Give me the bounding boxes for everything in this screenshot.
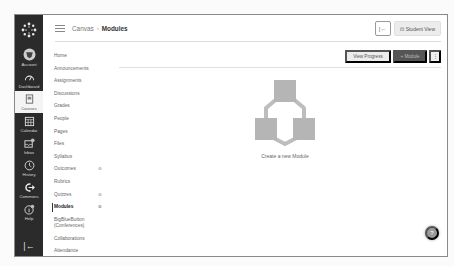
course-nav-files[interactable]: Files (54, 138, 109, 151)
courses-icon (24, 94, 35, 105)
global-nav-calendar[interactable]: Calendar (15, 113, 43, 135)
canvas-window: Account Dashboard Courses Calendar Inbox… (14, 14, 448, 257)
breadcrumb-canvas[interactable]: Canvas (72, 25, 94, 32)
course-nav-bigbluebutton[interactable]: BigBlueButton (Conferences) (54, 214, 109, 233)
global-nav-courses-label: Courses (21, 106, 37, 111)
global-nav-calendar-label: Calendar (21, 128, 38, 133)
kebab-menu-icon: ⋮ (433, 54, 438, 59)
collapse-left-icon: |← (379, 26, 387, 32)
student-view-icon: ⊡ (400, 26, 404, 32)
global-nav-commons[interactable]: Commons (15, 179, 43, 201)
question-icon: ? (430, 230, 433, 236)
global-nav-help[interactable]: Help (15, 201, 43, 223)
course-nav-collaborations[interactable]: Collaborations (54, 233, 109, 246)
course-nav-people[interactable]: People (54, 113, 109, 126)
course-nav-syllabus[interactable]: Syllabus (54, 151, 109, 164)
course-nav-outcomes[interactable]: Outcomes⊘ (54, 163, 109, 176)
commons-icon (24, 182, 35, 193)
breadcrumb-separator: › (97, 25, 99, 31)
student-view-button[interactable]: ⊡ Student View (394, 21, 441, 36)
history-icon (24, 160, 35, 171)
modules-illustration-icon (248, 78, 322, 148)
course-nav-pages[interactable]: Pages (54, 126, 109, 139)
course-nav: Home Announcements Assignments Discussio… (54, 50, 109, 257)
hamburger-menu-icon[interactable] (55, 25, 65, 32)
help-icon (24, 204, 35, 215)
collapse-course-nav-button[interactable]: |← (375, 21, 391, 36)
global-nav-inbox-label: Inbox (24, 150, 34, 155)
collapse-global-nav-button[interactable]: |← (23, 236, 34, 256)
inbox-icon (24, 138, 35, 149)
global-nav-dashboard[interactable]: Dashboard (15, 69, 43, 91)
global-nav-account[interactable]: Account (15, 45, 43, 69)
more-options-button[interactable]: ⋮ (429, 50, 441, 63)
collapse-nav-icon: |← (23, 241, 34, 251)
breadcrumb-modules: Modules (102, 25, 128, 32)
hidden-from-students-icon: ⊘ (98, 201, 102, 214)
add-module-button[interactable]: + Module (393, 50, 427, 63)
student-view-label: Student View (406, 26, 435, 32)
calendar-icon (24, 116, 35, 127)
modules-toolbar: View Progress + Module ⋮ (345, 50, 441, 63)
global-nav-inbox[interactable]: Inbox (15, 135, 43, 157)
hidden-from-students-icon: ⊘ (98, 189, 102, 202)
canvas-logo-icon (21, 22, 37, 38)
empty-state: Create a new Module (245, 78, 325, 159)
global-nav-account-label: Account (21, 62, 36, 67)
course-nav-grades[interactable]: Grades (54, 100, 109, 113)
account-icon (23, 48, 36, 61)
course-nav-modules[interactable]: Modules⊘ (54, 201, 109, 214)
page-header: Canvas › Modules |← ⊡ Student View (43, 15, 447, 41)
course-nav-attendance[interactable]: Attendance (54, 245, 109, 257)
global-nav: Account Dashboard Courses Calendar Inbox… (15, 15, 43, 256)
global-nav-dashboard-label: Dashboard (19, 84, 40, 89)
canvas-logo[interactable] (15, 15, 43, 45)
course-nav-quizzes[interactable]: Quizzes⊘ (54, 189, 109, 202)
course-nav-rubrics[interactable]: Rubrics (54, 176, 109, 189)
global-nav-history-label: History (22, 172, 35, 177)
help-floating-button[interactable]: ? (425, 226, 439, 240)
global-nav-help-label: Help (25, 216, 34, 221)
global-nav-commons-label: Commons (19, 194, 38, 199)
global-nav-history[interactable]: History (15, 157, 43, 179)
toolbar-divider (119, 67, 441, 68)
empty-state-caption: Create a new Module (245, 153, 325, 159)
course-nav-discussions[interactable]: Discussions (54, 88, 109, 101)
header-divider (55, 41, 441, 42)
course-nav-announcements[interactable]: Announcements (54, 63, 109, 76)
course-nav-home[interactable]: Home (54, 50, 109, 63)
global-nav-courses[interactable]: Courses (15, 91, 43, 113)
course-nav-assignments[interactable]: Assignments (54, 75, 109, 88)
breadcrumb: Canvas › Modules (72, 25, 128, 32)
hidden-from-students-icon: ⊘ (98, 163, 102, 176)
view-progress-button[interactable]: View Progress (345, 50, 391, 63)
dashboard-icon (24, 72, 35, 83)
